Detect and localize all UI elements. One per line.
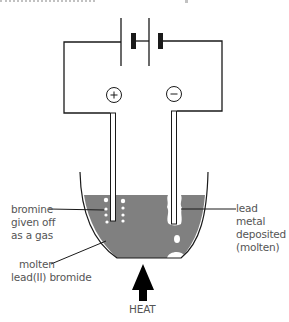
label-bromine-group: bromine given off as a gas <box>11 203 55 242</box>
circuit-wire <box>64 41 222 113</box>
label-lead-line3: (molten) <box>236 241 289 254</box>
label-electrolyte-group: molten lead(II) bromide <box>19 258 91 284</box>
label-lead-line1: lead metal <box>236 202 289 228</box>
label-bromine-line3: as a gas <box>11 229 55 242</box>
label-bromine-line1: bromine <box>11 203 55 216</box>
minus-circle-icon <box>167 87 182 102</box>
anode-electrode[interactable] <box>111 113 116 221</box>
cathode-electrode[interactable] <box>172 111 177 224</box>
label-lead-line2: deposited <box>236 228 289 241</box>
plus-circle-icon <box>107 88 122 103</box>
lead-droplet <box>174 235 180 243</box>
label-electrolyte-line2: lead(II) bromide <box>11 271 91 284</box>
label-electrolyte-line1: molten <box>19 258 91 271</box>
battery-icon <box>121 18 163 66</box>
label-heat: HEAT <box>129 303 156 316</box>
label-lead-group: lead metal deposited (molten) <box>236 202 289 254</box>
label-bromine-line2: given off <box>11 216 55 229</box>
molten-electrolyte <box>84 195 205 258</box>
heat-arrow-icon <box>132 264 154 301</box>
